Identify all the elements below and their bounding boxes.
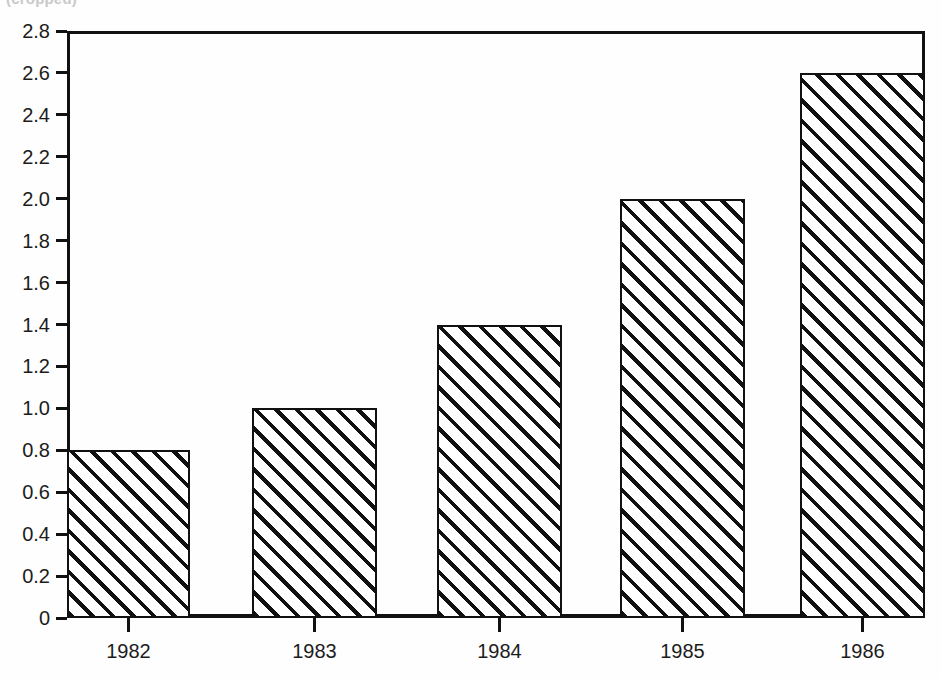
x-axis-label: 1983 <box>245 640 385 662</box>
x-axis-label: 1982 <box>59 640 199 662</box>
y-axis-label: 0.8 <box>0 440 58 460</box>
y-axis-label: 1.6 <box>0 273 58 293</box>
bar-1983 <box>252 408 377 618</box>
x-axis-label: 1985 <box>613 640 753 662</box>
y-axis-label: 2.8 <box>0 21 58 41</box>
y-axis-label: 1.4 <box>0 315 58 335</box>
y-axis-label: 0.6 <box>0 482 58 502</box>
chart-title-cropped: (cropped) <box>0 0 941 7</box>
y-axis-label: 2.6 <box>0 63 58 83</box>
x-axis-tick <box>313 618 316 632</box>
y-axis-label: 1.0 <box>0 398 58 418</box>
y-axis-label: 2.2 <box>0 147 58 167</box>
x-axis-tick <box>681 618 684 632</box>
y-axis-label: 1.2 <box>0 356 58 376</box>
y-axis-label: 0.4 <box>0 524 58 544</box>
bar-1986 <box>800 73 925 618</box>
y-axis-label: 0 <box>0 608 58 628</box>
bar-1984 <box>437 325 562 619</box>
x-axis-label: 1986 <box>793 640 933 662</box>
bar-chart-figure: (cropped) 2.82.62.42.22.01.81.61.41.21.0… <box>0 0 941 679</box>
x-axis-tick <box>861 618 864 632</box>
x-axis-label: 1984 <box>430 640 570 662</box>
y-axis-label: 2.4 <box>0 105 58 125</box>
y-axis-label: 1.8 <box>0 231 58 251</box>
y-axis-label: 0.2 <box>0 566 58 586</box>
x-axis-tick <box>498 618 501 632</box>
plot-area <box>67 31 925 618</box>
x-axis-tick <box>127 618 130 632</box>
bar-1982 <box>67 450 190 618</box>
bar-1985 <box>620 199 745 618</box>
y-axis-label: 2.0 <box>0 189 58 209</box>
chart-title-text: (cropped) <box>0 0 941 7</box>
